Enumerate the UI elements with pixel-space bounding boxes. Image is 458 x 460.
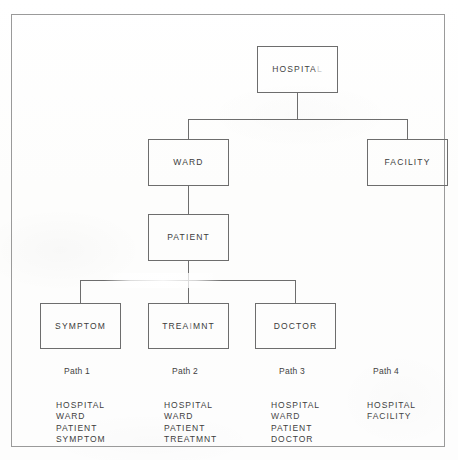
connector-patient-to-symptom [80,280,81,303]
connector-level2-bus [80,280,296,281]
node-hospital-label: HOSPITAL [272,65,323,74]
node-ward: WARD [148,139,229,186]
node-ward-label: WARD [173,158,203,167]
path-column-1: Path 1 HOSPITAL WARD PATIENT SYMPTOM [48,367,152,446]
node-patient-label: PATIENT [167,233,210,242]
path-step: HOSPITAL [56,400,152,412]
connector-patient-to-treatmnt [188,261,189,303]
node-doctor-label: DOCTOR [274,322,318,331]
node-facility: FACILITY [367,139,448,186]
node-doctor: DOCTOR [255,303,336,349]
path-column-3: Path 3 HOSPITAL WARD PATIENT DOCTOR [263,367,367,446]
path-step: WARD [56,411,152,423]
connector-patient-to-doctor [295,280,296,303]
node-patient: PATIENT [148,214,229,261]
node-treatmnt-label: TREAIMNT [162,322,215,331]
path-step: WARD [164,411,260,423]
scanned-page: HOSPITAL WARD FACILITY PATIENT SYMPTOM T… [0,0,458,460]
path-1-title: Path 1 [48,367,152,376]
path-step: FACILITY [367,411,458,423]
node-treatmnt: TREAIMNT [148,303,229,349]
path-step: HOSPITAL [164,400,260,412]
connector-ward-to-patient [188,186,189,214]
node-facility-label: FACILITY [384,158,430,167]
path-step: HOSPITAL [271,400,367,412]
path-column-2: Path 2 HOSPITAL WARD PATIENT TREATMNT [156,367,260,446]
connector-hospital-to-ward [188,119,189,139]
connector-level1-bus [188,119,408,120]
path-step: WARD [271,411,367,423]
path-step: PATIENT [164,423,260,435]
path-3-steps: HOSPITAL WARD PATIENT DOCTOR [263,400,367,446]
connector-hospital-to-facility [407,119,408,139]
path-2-steps: HOSPITAL WARD PATIENT TREATMNT [156,400,260,446]
path-column-4: Path 4 HOSPITAL FACILITY [359,367,458,423]
diagram-outer-frame: HOSPITAL WARD FACILITY PATIENT SYMPTOM T… [11,14,445,447]
node-hospital: HOSPITAL [257,46,338,93]
path-1-steps: HOSPITAL WARD PATIENT SYMPTOM [48,400,152,446]
path-4-steps: HOSPITAL FACILITY [359,400,458,423]
node-symptom: SYMPTOM [40,303,121,349]
path-3-title: Path 3 [263,367,367,376]
path-step: TREATMNT [164,434,260,446]
path-4-title: Path 4 [359,367,458,376]
path-step: PATIENT [271,423,367,435]
path-step: HOSPITAL [367,400,458,412]
node-symptom-label: SYMPTOM [55,322,106,331]
connector-hospital-stem [297,93,298,119]
path-2-title: Path 2 [156,367,260,376]
path-step: PATIENT [56,423,152,435]
path-step: DOCTOR [271,434,367,446]
path-step: SYMPTOM [56,434,152,446]
